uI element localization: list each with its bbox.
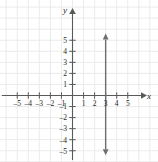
y-tick-label: –3 [59, 124, 68, 133]
x-tick-label: 2 [93, 99, 97, 108]
plotted-line-x-equals-3 [103, 34, 109, 156]
y-axis-arrowhead [69, 8, 76, 14]
x-tick-label: –2 [46, 99, 55, 108]
plot-line-top-arrowhead [103, 34, 109, 40]
y-tick-label: 3 [63, 58, 67, 67]
y-tick-label: –1 [59, 102, 68, 111]
x-tick-label: 4 [115, 99, 119, 108]
y-axis-name-label: y [62, 5, 67, 15]
y-tick-label: 2 [63, 69, 67, 78]
x-tick-label: –4 [24, 99, 33, 108]
x-tick-label: 5 [126, 99, 130, 108]
x-tick-label: 1 [82, 99, 86, 108]
plot-line-bottom-arrowhead [103, 149, 109, 155]
graph-canvas: –5–4–3–2–112345 54321–1–2–3–4–5 x y [0, 0, 158, 162]
y-tick-label: 5 [63, 36, 67, 45]
y-tick-label: –4 [59, 136, 68, 145]
y-tick-label: –2 [59, 113, 68, 122]
y-tick-label: –5 [59, 147, 68, 156]
x-tick-label: –5 [13, 99, 22, 108]
y-tick-label: 4 [63, 47, 67, 56]
x-tick-label: 3 [104, 99, 108, 108]
y-tick-label: 1 [63, 80, 67, 89]
x-axis-name-label: x [146, 91, 151, 101]
x-tick-label: –3 [35, 99, 44, 108]
coordinate-plane-figure: –5–4–3–2–112345 54321–1–2–3–4–5 x y [0, 0, 158, 162]
grid-lines [0, 0, 158, 162]
